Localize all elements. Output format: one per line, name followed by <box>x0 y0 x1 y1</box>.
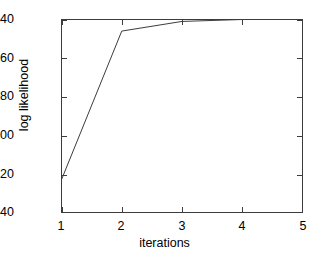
x-tick-top-3 <box>182 20 183 25</box>
x-tick-4 <box>242 207 243 212</box>
y-tick-right-60 <box>297 58 302 59</box>
x-tick-top-1 <box>62 20 63 25</box>
y-tick-120 <box>62 175 67 176</box>
y-tick-label-80: 80 <box>0 90 14 103</box>
y-tick-label-140: 140 <box>0 206 14 219</box>
y-tick-label-40: 40 <box>0 13 14 26</box>
chart-figure: log likelihood 40 60 80 100 120 140 1 2 … <box>0 0 329 259</box>
y-tick-right-140 <box>297 212 302 213</box>
x-tick-label-1: 1 <box>46 220 76 233</box>
y-tick-right-80 <box>297 97 302 98</box>
x-tick-5 <box>302 207 303 212</box>
x-axis-title: iterations <box>0 236 329 250</box>
y-tick-label-60: 60 <box>0 52 14 65</box>
x-tick-top-2 <box>122 20 123 25</box>
x-tick-top-5 <box>302 20 303 25</box>
y-tick-60 <box>62 58 67 59</box>
y-tick-140 <box>62 212 67 213</box>
y-tick-right-120 <box>297 175 302 176</box>
y-tick-right-100 <box>297 136 302 137</box>
x-tick-3 <box>182 207 183 212</box>
x-tick-1 <box>62 207 63 212</box>
y-tick-80 <box>62 97 67 98</box>
plot-area <box>61 19 303 213</box>
y-tick-label-120: 120 <box>0 168 14 181</box>
x-tick-label-4: 4 <box>227 220 257 233</box>
y-axis-title: log likelihood <box>17 15 31 175</box>
x-tick-label-5: 5 <box>288 220 318 233</box>
x-tick-label-2: 2 <box>106 220 136 233</box>
y-tick-100 <box>62 136 67 137</box>
x-tick-2 <box>122 207 123 212</box>
x-tick-label-3: 3 <box>167 220 197 233</box>
x-tick-top-4 <box>242 20 243 25</box>
y-tick-label-100: 100 <box>0 129 14 142</box>
